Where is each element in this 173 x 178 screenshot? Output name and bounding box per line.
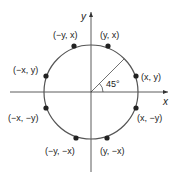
x-axis-label: x [162, 96, 169, 107]
point-neg-x-neg-y [43, 105, 48, 110]
angle-label: 45° [106, 79, 120, 89]
angle-arc [100, 84, 104, 93]
point-neg-x-y [43, 73, 48, 78]
label-neg-y-x: (−y, x) [53, 30, 78, 40]
eight-point-symmetry-diagram: y x 45° (y, x) (−y, x) (−x, y) (x, y) (−… [0, 0, 173, 178]
y-axis-arrow-icon [89, 12, 93, 17]
point-x-neg-y [133, 105, 138, 110]
label-x-y: (x, y) [141, 72, 161, 82]
label-neg-x-neg-y: (−x, −y) [8, 113, 39, 123]
y-axis-label: y [80, 11, 87, 22]
x-axis-arrow-icon [163, 90, 168, 94]
label-neg-y-neg-x: (−y, −x) [45, 146, 75, 156]
point-x-y [133, 73, 138, 78]
point-neg-y-neg-x [73, 135, 78, 140]
label-x-neg-y: (x, −y) [137, 113, 162, 123]
label-y-neg-x: (y, −x) [100, 146, 125, 156]
label-y-x: (y, x) [100, 30, 119, 40]
point-neg-y-x [71, 43, 76, 48]
label-neg-x-y: (−x, y) [13, 65, 38, 75]
point-y-x [105, 43, 110, 48]
point-y-neg-x [104, 135, 109, 140]
